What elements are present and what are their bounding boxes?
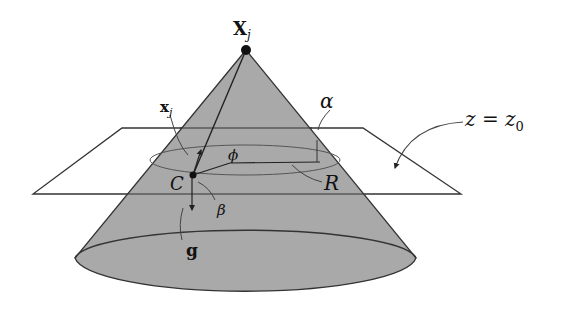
label-apex: Xj: [233, 18, 251, 42]
label-R: R: [323, 171, 339, 195]
label-phi: ϕ: [228, 146, 238, 164]
label-alpha: α: [320, 89, 334, 113]
label-g: g: [186, 240, 198, 260]
point-C: [190, 172, 197, 179]
label-plane: z = z0: [464, 107, 524, 134]
apex-point: [241, 45, 251, 55]
label-xj: xj: [160, 98, 173, 119]
label-C: C: [170, 173, 184, 194]
cone-plane-diagram: Xj xj α ϕ C R β g z = z0: [0, 0, 566, 310]
label-beta: β: [216, 201, 226, 219]
